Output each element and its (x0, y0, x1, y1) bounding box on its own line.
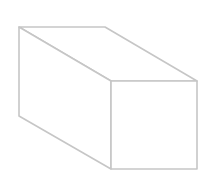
diagram-canvas (0, 0, 206, 189)
rectangular-prism-drawing (0, 0, 206, 189)
front-face (111, 81, 197, 169)
